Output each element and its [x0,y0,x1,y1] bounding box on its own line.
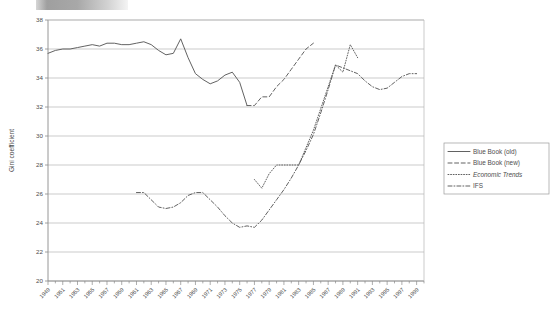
x-tick-label: 1975 [230,286,243,299]
y-tick-label: 30 [36,132,43,139]
legend-label-3: Economic Trends [473,171,523,178]
x-tick-label: 1987 [318,286,331,299]
chart-legend: Blue Book (old)Blue Book (new)Economic T… [444,143,549,194]
x-tick-label: 1961 [127,286,140,299]
y-axis-title: Gini coefficient [8,129,15,172]
y-tick-label: 26 [36,190,43,197]
x-tick-label: 1997 [392,286,405,299]
y-axis-tick-labels: 20222426283032343638 [36,16,48,284]
chart-figure: 20222426283032343638 1949195119531955195… [0,0,554,319]
y-tick-label: 20 [36,277,43,284]
series-line-economic-trends [254,45,357,189]
x-tick-label: 1951 [53,286,66,299]
x-tick-label: 1979 [259,286,272,299]
x-tick-label: 1957 [97,286,110,299]
x-tick-label: 1995 [377,286,390,299]
series-line-blue-book-new [247,43,313,105]
y-axis-title-text: Gini coefficient [8,129,15,172]
y-tick-label: 36 [36,45,43,52]
x-tick-label: 1993 [363,286,376,299]
legend-label-4: IFS [473,182,483,189]
y-tick-label: 38 [36,16,43,23]
x-tick-label: 1983 [289,286,302,299]
x-tick-label: 1985 [304,286,317,299]
data-series [48,39,417,228]
legend-label-1: Blue Book (old) [473,148,517,156]
x-tick-label: 1963 [141,286,154,299]
y-tick-label: 28 [36,161,43,168]
x-tick-label: 1959 [112,286,125,299]
y-tick-label: 24 [36,219,43,226]
x-tick-label: 1953 [68,286,81,299]
grid-lines [48,20,424,281]
x-tick-label: 1999 [407,286,420,299]
x-tick-label: 1949 [38,286,51,299]
x-axis-tick-labels: 1949195119531955195719591961196319651967… [38,281,424,300]
x-tick-label: 1981 [274,286,287,299]
x-tick-label: 1977 [245,286,258,299]
gini-coefficient-line-chart: 20222426283032343638 1949195119531955195… [0,0,554,319]
series-line-ifs [136,65,416,227]
y-tick-label: 32 [36,103,43,110]
decorative-grey-bar [36,0,128,10]
legend-label-2: Blue Book (new) [473,159,520,167]
plot-frame [48,20,424,281]
x-tick-label: 1971 [200,286,213,299]
x-tick-label: 1989 [333,286,346,299]
y-tick-label: 34 [36,74,43,81]
x-tick-label: 1969 [186,286,199,299]
y-tick-label: 22 [36,248,43,255]
x-tick-label: 1955 [82,286,95,299]
x-tick-label: 1965 [156,286,169,299]
x-tick-label: 1973 [215,286,228,299]
x-tick-label: 1967 [171,286,184,299]
x-tick-label: 1991 [348,286,361,299]
